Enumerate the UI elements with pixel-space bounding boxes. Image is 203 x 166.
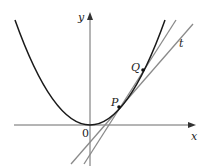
x-axis-label: x	[191, 131, 197, 142]
point-q-label: Q	[131, 62, 140, 73]
tangent-line-label: t	[179, 38, 183, 49]
diagram-canvas	[0, 0, 203, 166]
origin-label: 0	[82, 128, 89, 139]
point-p-label: P	[111, 97, 118, 108]
y-axis-arrow-icon	[87, 12, 93, 20]
diagram: y x 0 P Q t	[0, 0, 203, 166]
tangent-line-t	[71, 24, 193, 164]
x-axis-arrow-icon	[188, 122, 196, 128]
y-axis-label: y	[78, 12, 84, 23]
point-q	[141, 68, 145, 72]
secant-line-pq	[84, 20, 176, 164]
